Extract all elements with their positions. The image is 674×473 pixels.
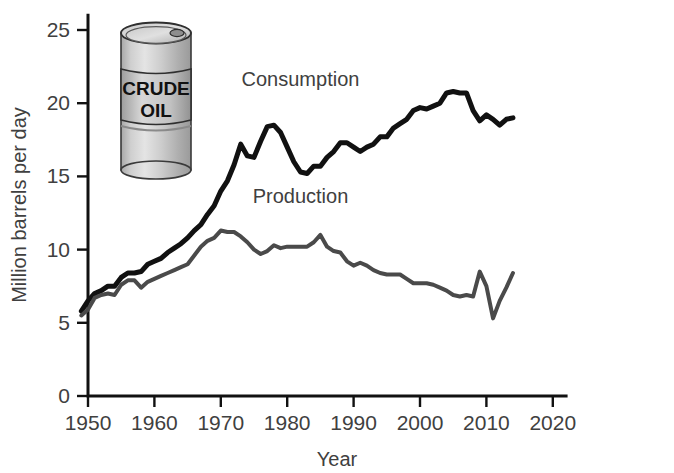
x-axis-ticks <box>88 396 553 407</box>
y-axis-ticks <box>77 30 88 396</box>
y-axis-tick-labels: 0510152025 <box>47 18 70 407</box>
x-tick-label: 1950 <box>65 411 112 434</box>
y-tick-label: 5 <box>58 311 70 334</box>
chart-series-labels: ConsumptionProduction <box>242 68 360 207</box>
y-tick-label: 20 <box>47 91 70 114</box>
barrel-bung-hole <box>170 29 184 36</box>
barrel-label-crude: CRUDE <box>122 78 190 99</box>
x-tick-label: 2000 <box>397 411 444 434</box>
x-tick-label: 1960 <box>131 411 178 434</box>
y-tick-label: 25 <box>47 18 70 41</box>
x-tick-label: 1990 <box>330 411 377 434</box>
barrel-label-oil: OIL <box>140 100 172 121</box>
x-axis-tick-labels: 19501960197019801990200020102020 <box>65 411 577 434</box>
x-tick-label: 2010 <box>463 411 510 434</box>
x-axis-title: Year <box>317 448 358 470</box>
series-label-production: Production <box>253 185 349 207</box>
x-tick-label: 2020 <box>529 411 576 434</box>
y-tick-label: 15 <box>47 164 70 187</box>
barrel-bottom <box>121 161 191 179</box>
chart-container: 19501960197019801990200020102020 0510152… <box>0 0 674 473</box>
series-label-consumption: Consumption <box>242 68 360 90</box>
y-tick-label: 0 <box>58 384 70 407</box>
y-tick-label: 10 <box>47 238 70 261</box>
crude-oil-barrel-illustration: CRUDE OIL <box>121 23 191 180</box>
series-line-production <box>81 231 513 319</box>
x-tick-label: 1970 <box>197 411 244 434</box>
line-chart: 19501960197019801990200020102020 0510152… <box>0 0 674 473</box>
x-tick-label: 1980 <box>264 411 311 434</box>
y-axis-title: Million barrels per day <box>8 107 30 303</box>
